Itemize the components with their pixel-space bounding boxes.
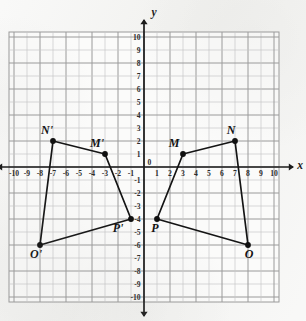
y-axis-tick-label: -5: [134, 228, 141, 237]
x-axis-tick-label: -9: [24, 169, 31, 178]
y-axis-tick-label: -3: [134, 202, 141, 211]
axis-arrowhead: [289, 163, 294, 170]
y-axis-tick-label: 10: [133, 33, 141, 42]
vertex-label: N: [226, 123, 237, 137]
y-axis-tick-label: 1: [137, 150, 141, 159]
vertex-label: P': [113, 221, 124, 235]
vertex-label: M': [89, 136, 105, 150]
vertex-label: N': [40, 123, 54, 137]
y-axis-tick-label: 9: [137, 46, 141, 55]
x-axis-tick-label: 2: [168, 169, 172, 178]
x-axis-tick-label: -5: [76, 169, 83, 178]
x-axis-name: x: [296, 159, 303, 171]
y-axis-tick-label: -6: [134, 241, 141, 250]
y-axis-tick-label: -9: [134, 280, 141, 289]
x-axis-tick-label: 8: [246, 169, 250, 178]
x-axis-tick-label: 5: [207, 169, 211, 178]
x-axis-tick-label: -3: [102, 169, 109, 178]
x-axis-tick-label: -7: [50, 169, 57, 178]
coordinate-plane-figure: -10-9-8-7-6-5-4-3-2-1012345678910-10-9-8…: [0, 0, 306, 321]
vertex-label: O: [245, 247, 254, 261]
x-axis-tick-label: -10: [9, 169, 19, 178]
x-axis-tick-label: 3: [181, 169, 185, 178]
coordinate-plane-svg: -10-9-8-7-6-5-4-3-2-1012345678910-10-9-8…: [0, 0, 306, 321]
y-axis-tick-label: -1: [134, 176, 141, 185]
x-axis-tick-label: -6: [63, 169, 70, 178]
axis-arrowhead: [140, 19, 147, 24]
x-axis-tick-label: 7: [233, 169, 237, 178]
x-axis-tick-label: 6: [220, 169, 224, 178]
vertex-point: [102, 151, 108, 157]
vertex-point: [128, 216, 134, 222]
x-axis-tick-label: -2: [115, 169, 122, 178]
y-axis-tick-label: -4: [134, 215, 141, 224]
y-axis-tick-label: 6: [137, 85, 141, 94]
vertex-point: [180, 151, 186, 157]
y-axis-tick-label: 7: [137, 72, 141, 81]
y-axis-tick-label: 5: [137, 98, 141, 107]
y-axis-tick-label: -10: [130, 293, 140, 302]
y-axis-tick-label: -7: [134, 254, 141, 263]
vertex-label: M: [168, 136, 180, 150]
axis-arrowhead: [0, 163, 2, 170]
vertex-point: [50, 138, 56, 144]
x-axis-tick-label: 9: [259, 169, 263, 178]
y-axis-tick-label: -8: [134, 267, 141, 276]
axis-arrowhead: [140, 312, 147, 317]
x-axis-tick-label: -8: [37, 169, 44, 178]
x-axis-tick-label: 4: [194, 169, 198, 178]
y-axis-tick-label: 8: [137, 59, 141, 68]
vertex-label: P: [151, 221, 159, 235]
x-axis-tick-label: 1: [155, 169, 159, 178]
y-axis-tick-label: 2: [137, 137, 141, 146]
y-axis-name: y: [149, 6, 157, 19]
axis-tick-label-origin: 0: [148, 158, 152, 167]
x-axis-tick-label: -4: [89, 169, 96, 178]
vertex-point: [232, 138, 238, 144]
vertex-label: O': [30, 247, 43, 261]
y-axis-tick-label: 4: [137, 111, 141, 120]
x-axis-tick-label: 10: [270, 169, 278, 178]
y-axis-tick-label: 3: [137, 124, 141, 133]
y-axis-tick-label: -2: [134, 189, 141, 198]
